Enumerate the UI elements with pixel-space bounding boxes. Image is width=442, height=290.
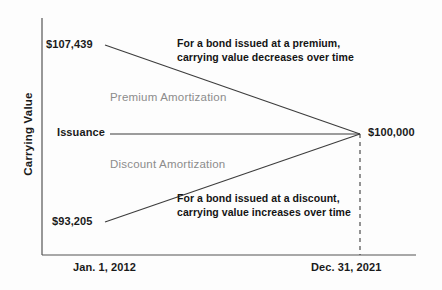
x-axis-tick-start: Jan. 1, 2012 bbox=[73, 261, 136, 274]
x-axis-tick-end: Dec. 31, 2021 bbox=[311, 261, 381, 274]
discount-annotation: For a bond issued at a discount, carryin… bbox=[177, 191, 351, 219]
y-axis-title: Carrying Value bbox=[22, 79, 34, 189]
premium-start-value-label: $107,439 bbox=[46, 38, 93, 51]
bond-carrying-value-chart: Carrying Value $107,439 Issuance $93,205… bbox=[0, 0, 442, 290]
premium-annotation: For a bond issued at a premium, carrying… bbox=[177, 36, 354, 64]
discount-start-value-label: $93,205 bbox=[52, 215, 92, 228]
converge-value-label: $100,000 bbox=[368, 126, 415, 139]
discount-amortization-label: Discount Amortization bbox=[110, 158, 225, 171]
issuance-value-label: Issuance bbox=[57, 126, 105, 139]
premium-amortization-label: Premium Amortization bbox=[110, 91, 226, 104]
